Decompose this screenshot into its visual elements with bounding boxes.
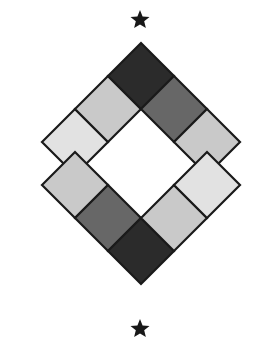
artwork-canvas: [0, 0, 260, 355]
diamond-medallion-figure: [0, 0, 260, 355]
